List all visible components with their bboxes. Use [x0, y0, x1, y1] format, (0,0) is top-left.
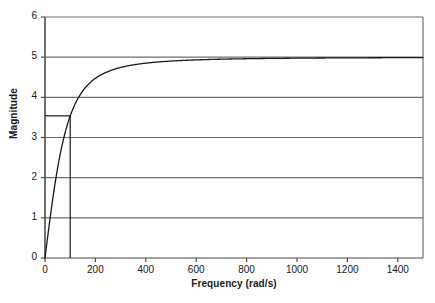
x-tick-label-1400: 1400 — [378, 264, 418, 275]
chart-plot-area — [0, 0, 435, 303]
y-tick-label-6: 6 — [11, 10, 37, 21]
x-tick-label-1200: 1200 — [327, 264, 367, 275]
x-tick-label-1000: 1000 — [277, 264, 317, 275]
x-tick-label-600: 600 — [176, 264, 216, 275]
x-tick-label-0: 0 — [25, 264, 65, 275]
x-axis-title: Frequency (rad/s) — [45, 278, 423, 289]
y-tick-label-0: 0 — [11, 251, 37, 262]
x-tick-label-800: 800 — [227, 264, 267, 275]
y-tick-label-2: 2 — [11, 171, 37, 182]
y-tick-label-5: 5 — [11, 50, 37, 61]
y-axis-title: Magnitude — [8, 69, 19, 159]
magnitude-frequency-chart: 0123456 0200400600800100012001400 Magnit… — [0, 0, 435, 303]
x-tick-label-200: 200 — [75, 264, 115, 275]
y-tick-label-1: 1 — [11, 211, 37, 222]
x-tick-label-400: 400 — [126, 264, 166, 275]
